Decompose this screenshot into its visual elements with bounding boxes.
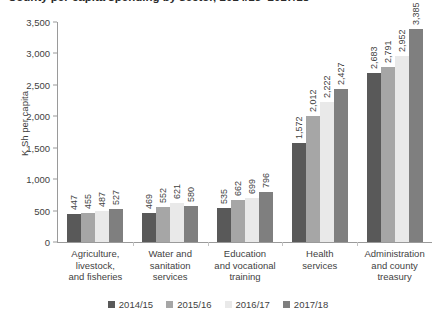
bar-value-label: 699 bbox=[246, 179, 256, 194]
bar-value-label: 2,012 bbox=[307, 89, 317, 112]
x-axis-category-label-line: livestock, bbox=[58, 260, 133, 272]
bar-column[interactable]: 2,427 bbox=[334, 22, 348, 242]
bar[interactable] bbox=[367, 73, 381, 242]
bar[interactable] bbox=[67, 214, 81, 242]
bar-value-label: 552 bbox=[158, 188, 168, 203]
bar[interactable] bbox=[231, 200, 245, 242]
x-axis-category-label: Agriculture,livestock,and fisheries bbox=[58, 248, 133, 283]
legend-item[interactable]: 2015/16 bbox=[166, 299, 211, 310]
x-axis-category-label-line: Education bbox=[208, 248, 283, 260]
legend-item[interactable]: 2016/17 bbox=[225, 299, 270, 310]
bar-group: 447455487527 bbox=[58, 22, 133, 242]
legend-swatch-icon bbox=[283, 301, 290, 308]
bar-chart: County per capita spending by sector, 20… bbox=[0, 0, 436, 321]
bar[interactable] bbox=[156, 207, 170, 242]
bar-column[interactable]: 2,683 bbox=[367, 22, 381, 242]
x-axis-category-label-line: Agriculture, bbox=[58, 248, 133, 260]
plot-area: 4474554875274695526215805356626997961,57… bbox=[58, 22, 432, 242]
x-axis-line bbox=[57, 242, 432, 243]
bar-column[interactable]: 699 bbox=[245, 22, 259, 242]
x-axis-category-label: Water andsanitationservices bbox=[133, 248, 208, 283]
legend-swatch-icon bbox=[166, 301, 173, 308]
bar-value-label: 2,683 bbox=[368, 47, 378, 70]
bar[interactable] bbox=[334, 89, 348, 242]
bar-column[interactable]: 469 bbox=[142, 22, 156, 242]
bar-value-label: 487 bbox=[97, 192, 107, 207]
bar-column[interactable]: 2,012 bbox=[306, 22, 320, 242]
x-axis-category-label-line: services bbox=[282, 260, 357, 272]
bar-column[interactable]: 662 bbox=[231, 22, 245, 242]
y-axis-tick-label: 2,500 bbox=[26, 79, 50, 90]
y-axis-tick-labels: 05001,0001,5002,0002,5003,0003,500 bbox=[0, 0, 57, 321]
bar-column[interactable]: 527 bbox=[109, 22, 123, 242]
bar-column[interactable]: 447 bbox=[67, 22, 81, 242]
legend-swatch-icon bbox=[225, 301, 232, 308]
bar[interactable] bbox=[95, 211, 109, 242]
bar-column[interactable]: 535 bbox=[217, 22, 231, 242]
bar-value-label: 1,572 bbox=[293, 117, 303, 140]
legend-label: 2014/15 bbox=[119, 299, 153, 310]
bar-column[interactable]: 621 bbox=[170, 22, 184, 242]
bar-group: 1,5722,0122,2222,427 bbox=[282, 22, 357, 242]
x-axis-category-label-line: Health bbox=[282, 248, 357, 260]
bar-value-label: 527 bbox=[111, 190, 121, 205]
bar-group-bars: 1,5722,0122,2222,427 bbox=[282, 22, 357, 242]
bar-column[interactable]: 580 bbox=[184, 22, 198, 242]
legend-label: 2016/17 bbox=[236, 299, 270, 310]
bar[interactable] bbox=[381, 67, 395, 242]
bar-column[interactable]: 796 bbox=[259, 22, 273, 242]
bar[interactable] bbox=[245, 198, 259, 242]
bar[interactable] bbox=[184, 206, 198, 242]
legend-swatch-icon bbox=[108, 301, 115, 308]
x-axis-category-labels: Agriculture,livestock,and fisheriesWater… bbox=[58, 248, 432, 294]
bar-value-label: 535 bbox=[218, 189, 228, 204]
bar-value-label: 2,222 bbox=[321, 76, 331, 99]
legend-item[interactable]: 2017/18 bbox=[283, 299, 328, 310]
bar-column[interactable]: 487 bbox=[95, 22, 109, 242]
bar-group: 535662699796 bbox=[208, 22, 283, 242]
bar[interactable] bbox=[109, 209, 123, 242]
chart-title-truncated: County per capita spending by sector, 20… bbox=[0, 0, 436, 5]
bar-column[interactable]: 1,572 bbox=[292, 22, 306, 242]
bar[interactable] bbox=[306, 116, 320, 242]
bar-group-bars: 469552621580 bbox=[133, 22, 208, 242]
x-axis-category-label: Educationand vocationaltraining bbox=[208, 248, 283, 283]
bar-column[interactable]: 2,952 bbox=[395, 22, 409, 242]
x-axis-category-label-line: and fisheries bbox=[58, 271, 133, 283]
bar-value-label: 621 bbox=[172, 184, 182, 199]
bar-group-bars: 2,6832,7912,9523,385 bbox=[357, 22, 432, 242]
y-axis-tick-label: 2,000 bbox=[26, 111, 50, 122]
bar[interactable] bbox=[320, 102, 334, 242]
bar[interactable] bbox=[395, 56, 409, 242]
legend-item[interactable]: 2014/15 bbox=[108, 299, 153, 310]
bar-column[interactable]: 3,385 bbox=[409, 22, 423, 242]
bar-group-bars: 447455487527 bbox=[58, 22, 133, 242]
y-axis-tick-label: 3,000 bbox=[26, 48, 50, 59]
x-axis-category-label-line: and vocational bbox=[208, 260, 283, 272]
x-axis-group-separator bbox=[208, 242, 209, 246]
x-axis-category-label-line: treasury bbox=[357, 271, 432, 283]
y-axis-tick-label: 3,500 bbox=[26, 17, 50, 28]
bar[interactable] bbox=[409, 29, 423, 242]
bar-column[interactable]: 455 bbox=[81, 22, 95, 242]
bar-value-label: 469 bbox=[144, 194, 154, 209]
bar[interactable] bbox=[292, 143, 306, 242]
x-axis-group-separator bbox=[357, 242, 358, 246]
bar-column[interactable]: 2,222 bbox=[320, 22, 334, 242]
x-axis-category-label-line: Water and bbox=[133, 248, 208, 260]
x-axis-group-separator bbox=[133, 242, 134, 246]
bar-value-label: 662 bbox=[232, 181, 242, 196]
bar[interactable] bbox=[142, 213, 156, 242]
x-axis-category-label: Healthservices bbox=[282, 248, 357, 271]
bar-value-label: 580 bbox=[186, 187, 196, 202]
x-axis-category-label-line: training bbox=[208, 271, 283, 283]
bar-column[interactable]: 2,791 bbox=[381, 22, 395, 242]
bar[interactable] bbox=[81, 213, 95, 242]
bar[interactable] bbox=[259, 192, 273, 242]
y-axis-tick-label: 1,000 bbox=[26, 174, 50, 185]
bar[interactable] bbox=[217, 208, 231, 242]
bar-column[interactable]: 552 bbox=[156, 22, 170, 242]
bar-group-bars: 535662699796 bbox=[208, 22, 283, 242]
y-axis-tick-label: 0 bbox=[45, 237, 50, 248]
bar[interactable] bbox=[170, 203, 184, 242]
